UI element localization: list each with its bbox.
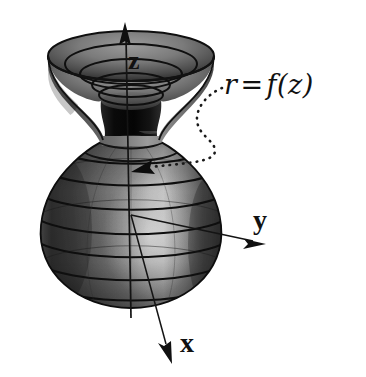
formula-open-paren: ( (277, 69, 288, 100)
formula-equals: = (237, 69, 266, 100)
x-axis-arrowhead (158, 341, 172, 364)
y-axis-arrowhead (243, 239, 266, 249)
formula-close-paren: ) (303, 69, 314, 100)
bulb-left-shadow (24, 152, 92, 308)
formula-z: z (288, 69, 303, 100)
formula-r: r (224, 69, 237, 100)
z-axis-label: z (128, 48, 140, 74)
x-axis-label: x (180, 329, 194, 357)
formula-f: f (267, 69, 278, 100)
surface-of-revolution-figure (0, 0, 366, 377)
formula-label: r=f(z) (224, 69, 314, 100)
y-axis-label: y (253, 206, 267, 234)
